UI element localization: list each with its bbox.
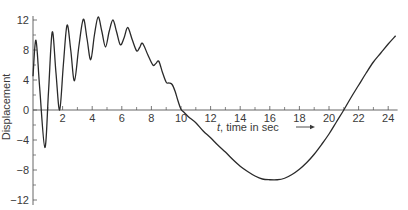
x-axis: 24681012141618202224 — [33, 106, 398, 124]
x-tick-label: 18 — [293, 112, 305, 124]
x-tick-label: 6 — [119, 112, 125, 124]
x-tick-label: 20 — [323, 112, 335, 124]
y-tick-label: −8 — [16, 164, 29, 176]
x-tick-label: 12 — [204, 112, 216, 124]
y-axis: 12840−4−8−12 — [10, 14, 37, 206]
y-tick-label: 0 — [23, 104, 29, 116]
y-tick-label: −4 — [16, 134, 29, 146]
y-tick-label: −12 — [10, 194, 29, 206]
chart-canvas: 12840−4−8−12 24681012141618202224 Displa… — [0, 0, 408, 210]
y-tick-label: 12 — [17, 14, 29, 26]
x-tick-label: 22 — [352, 112, 364, 124]
x-axis-label-text: , time in sec — [220, 121, 279, 133]
series-line-displacement — [33, 17, 396, 180]
y-axis-label: Displacement — [0, 74, 12, 141]
x-axis-label: t, time in sec — [217, 121, 279, 133]
y-tick-label: 8 — [23, 44, 29, 56]
x-tick-label: 2 — [60, 112, 66, 124]
x-tick-label: 8 — [148, 112, 154, 124]
y-tick-label: 4 — [23, 74, 29, 86]
x-tick-label: 4 — [89, 112, 95, 124]
series-layer — [33, 17, 396, 180]
x-axis-label-arrow-icon — [296, 125, 315, 129]
x-tick-label: 24 — [382, 112, 394, 124]
